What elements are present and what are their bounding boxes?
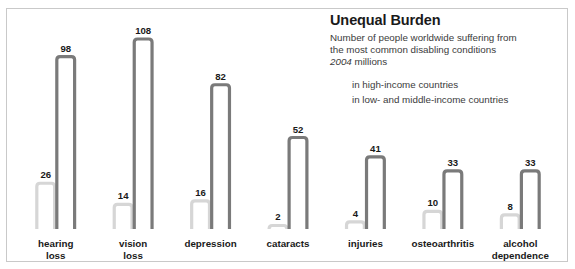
bar-value-label: 4: [353, 208, 359, 219]
category-axis-label: loss: [123, 250, 143, 261]
bar-value-label: 98: [60, 43, 71, 54]
bar-value-label: 41: [370, 143, 381, 154]
bar-value-label: 16: [195, 187, 206, 198]
category-axis-label: hearing: [38, 238, 73, 249]
category-axis-label: loss: [46, 250, 66, 261]
bar-value-label: 108: [135, 25, 152, 36]
category-axis-label: alcohol: [503, 238, 538, 249]
bar-value-label: 26: [40, 169, 51, 180]
bar-value-label: 8: [508, 201, 514, 212]
category-axis-label: osteoarthritis: [412, 238, 475, 249]
bar-chart-svg: 2698hearingloss14108visionloss1682depres…: [7, 9, 567, 261]
category-axis-label: vision: [119, 238, 147, 249]
category-axis-label: injuries: [348, 238, 383, 249]
category-axis-label: dependence: [492, 250, 550, 261]
category-axis-label: cataracts: [266, 238, 310, 249]
bar-value-label: 2: [275, 211, 280, 222]
bar-value-label: 10: [428, 197, 439, 208]
bar-value-label: 52: [293, 124, 304, 135]
plot-area: 2698hearingloss14108visionloss1682depres…: [7, 9, 567, 261]
bar-value-label: 33: [448, 157, 459, 168]
chart-figure: Unequal Burden Number of people worldwid…: [0, 0, 575, 269]
bar-value-label: 14: [118, 190, 129, 201]
bar-value-label: 33: [525, 157, 536, 168]
bar-value-label: 82: [215, 71, 226, 82]
category-axis-label: depression: [184, 238, 236, 249]
